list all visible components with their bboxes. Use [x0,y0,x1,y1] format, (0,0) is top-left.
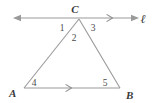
line-label-l: ℓ [141,12,146,26]
angle-label-1: 1 [60,23,65,33]
line-l-right-arrowhead [131,15,139,22]
vertex-label-a: A [8,87,16,99]
angle-label-5: 5 [103,78,108,88]
line-l-left-arrowhead [13,15,21,22]
geometry-diagram: C A B ℓ 1 2 3 4 5 [0,0,155,103]
angle-label-2: 2 [72,33,77,43]
angle-label-4: 4 [32,78,37,88]
angle-label-3: 3 [91,23,96,33]
vertex-label-c: C [71,3,79,15]
vertex-label-b: B [125,89,133,101]
triangle-side-bc [79,19,120,88]
